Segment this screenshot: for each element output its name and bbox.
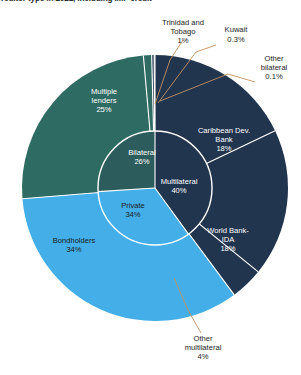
callout-other-bilateral-line2: bilateral xyxy=(261,63,288,72)
inner-label-multilateral-pct: 40% xyxy=(171,186,186,195)
callout-other-bilateral-pct: 0.1% xyxy=(265,72,283,81)
outer-label-worldbank-pct: 18% xyxy=(220,244,235,253)
inner-label-private-name: Private xyxy=(121,201,145,210)
outer-label-worldbank-line2: IDA xyxy=(222,235,236,244)
outer-label-bondholders-pct: 34% xyxy=(66,245,81,254)
callout-other-multilateral-pct: 4% xyxy=(198,352,209,361)
callout-trinidad-line1: Trinidad and xyxy=(162,18,204,27)
outer-label-multiple-lenders-line2: lenders xyxy=(92,96,117,105)
inner-label-bilateral-pct: 26% xyxy=(134,157,149,166)
outer-label-multiple-lenders-line1: Multiple xyxy=(91,87,117,96)
page-title: reditor type in 2021, including IMF cred… xyxy=(1,0,152,4)
outer-label-bondholders-name: Bondholders xyxy=(53,236,96,245)
inner-label-private-pct: 34% xyxy=(125,210,140,219)
outer-label-worldbank-line1: World Bank- xyxy=(207,226,249,235)
pie-chart-figure: reditor type in 2021, including IMF cred… xyxy=(0,0,301,375)
callout-other-multilateral-line1: Other xyxy=(194,334,213,343)
outer-label-cdb-pct: 18% xyxy=(216,144,231,153)
chart-title-strip: reditor type in 2021, including IMF cred… xyxy=(0,0,301,10)
callout-trinidad-pct: 1% xyxy=(178,36,189,45)
outer-label-cdb-line1: Caribbean Dev. xyxy=(198,126,250,135)
inner-label-bilateral-name: Bilateral xyxy=(128,148,156,157)
callout-kuwait-name: Kuwait xyxy=(225,25,249,34)
inner-label-multilateral-name: Multilateral xyxy=(161,177,198,186)
outer-label-cdb-line2: Bank xyxy=(215,135,233,144)
callout-other-multilateral-line2: multilateral xyxy=(185,343,222,352)
callout-trinidad-line2: Tobago xyxy=(171,27,196,36)
callout-other-bilateral-line1: Other xyxy=(265,54,284,63)
outer-label-multiple-lenders-pct: 25% xyxy=(96,105,111,114)
pie-chart-svg: Multilateral 40% Private 34% Bilateral 2… xyxy=(0,0,301,375)
callout-kuwait-pct: 0.3% xyxy=(227,35,245,44)
